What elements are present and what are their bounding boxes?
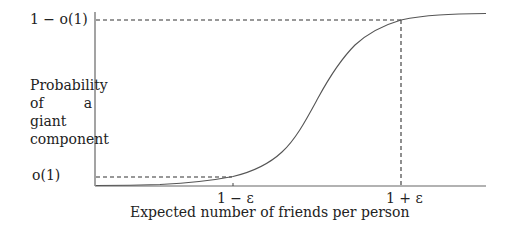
y-axis-title-line-1: Probability (30, 76, 92, 94)
x-axis-title: Expected number of friends per person (130, 204, 410, 220)
y-tick-label-low: o(1) (32, 167, 60, 183)
y-axis-title-line-2: of a giant (30, 94, 92, 130)
probability-curve (96, 14, 486, 186)
y-axis-title: Probability of a giant component (30, 76, 92, 148)
y-tick-label-high: 1 − o(1) (30, 11, 88, 27)
y-axis-title-line-3: component (30, 130, 92, 148)
